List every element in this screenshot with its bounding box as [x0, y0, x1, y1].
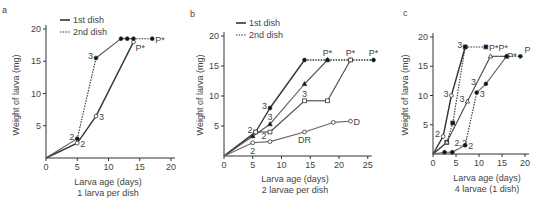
y-tick-label: 5 [423, 120, 428, 130]
x-tick-label: 25 [363, 160, 373, 170]
data-point [505, 54, 509, 58]
data-point [372, 58, 376, 62]
x-tick-label: 20 [166, 162, 176, 172]
legend-1st-dish: 1st dish [249, 18, 280, 28]
x-tick-label: 20 [520, 158, 530, 168]
data-point [349, 119, 353, 123]
x-tick-label: 5 [250, 160, 255, 170]
point-annotation: 3 [457, 40, 462, 50]
data-point [150, 37, 154, 41]
y-tick-label: 20 [31, 24, 41, 34]
plot-area: 23P*23P* [46, 35, 165, 158]
point-annotation: 3 [459, 94, 464, 104]
point-annotation: DR [298, 135, 311, 145]
data-point [484, 82, 488, 86]
y-axis-label: Weight of larva (mg) [195, 55, 205, 136]
y-tick-label: 10 [418, 91, 428, 101]
point-annotation: P* [369, 48, 379, 58]
plot-area: 23P*3P*23P*2DRD [224, 48, 379, 156]
point-annotation: 3 [267, 112, 272, 122]
point-annotation: P*P* [489, 43, 509, 53]
y-tick-label: 15 [31, 56, 41, 66]
point-annotation: 2 [468, 141, 473, 151]
panel-b: b 1st dish 2nd dish 05101520255101520 23… [190, 9, 379, 195]
point-annotation: 2 [80, 139, 85, 149]
point-annotation: 2 [248, 125, 253, 135]
data-point [326, 99, 330, 103]
panel-a: a 1st dish 2nd dish 051015205101520 23P*… [2, 5, 176, 198]
y-tick-label: 5 [36, 121, 41, 131]
x-tick-label: 20 [334, 160, 344, 170]
y-axis-label: Weight of larva (mg) [400, 55, 410, 136]
x-tick-label: 0 [43, 162, 48, 172]
data-point [75, 137, 79, 141]
panel-letter: a [2, 5, 7, 15]
series: 23P* [224, 48, 356, 156]
data-point [132, 37, 136, 41]
point-annotation: 3 [471, 77, 476, 87]
figure: a 1st dish 2nd dish 051015205101520 23P*… [0, 0, 545, 206]
point-annotation: P* [507, 51, 517, 61]
data-point [451, 121, 455, 125]
x-tick-label: 5 [453, 158, 458, 168]
x-axis-subtitle: 1 larva per dish [77, 188, 139, 198]
legend-2nd-dish: 2nd dish [249, 30, 283, 40]
series: 23P [433, 45, 530, 154]
point-annotation: 3 [443, 89, 448, 99]
data-point [75, 141, 79, 145]
x-tick-label: 0 [430, 158, 435, 168]
data-point [303, 99, 307, 103]
data-point [465, 99, 469, 103]
x-tick-label: 10 [276, 160, 286, 170]
x-tick-label: 15 [135, 162, 145, 172]
data-point [441, 135, 445, 139]
axes: 051015205101520 [31, 24, 176, 172]
x-tick-label: 5 [75, 162, 80, 172]
data-point [349, 58, 353, 62]
data-point [94, 56, 98, 60]
data-point [463, 45, 467, 49]
data-point [331, 121, 335, 125]
data-point [450, 94, 454, 98]
series: 2DRD [224, 117, 361, 156]
x-tick-label: 10 [474, 158, 484, 168]
point-annotation: 3 [480, 89, 485, 99]
x-axis-subtitle: 4 larvae (1 dish) [455, 184, 520, 194]
x-axis-subtitle: 2 larvae per dish [262, 185, 329, 195]
y-tick-label: 20 [418, 32, 428, 42]
point-annotation: P* [136, 43, 146, 53]
data-point [254, 130, 258, 134]
legend: 1st dish 2nd dish [60, 15, 107, 37]
data-point [268, 130, 272, 134]
y-tick-label: 20 [209, 31, 219, 41]
point-annotation: D [354, 117, 361, 127]
y-axis-label: Weight of larva (mg) [11, 55, 21, 136]
data-point [303, 58, 307, 62]
data-point [488, 54, 492, 58]
y-tick-label: 10 [31, 89, 41, 99]
data-point [268, 106, 272, 110]
point-annotation: 2 [262, 131, 267, 141]
panel-letter: b [190, 9, 195, 19]
data-point [268, 140, 272, 144]
data-point [443, 150, 447, 154]
data-point [450, 150, 454, 154]
data-point [463, 143, 467, 147]
x-tick-label: 15 [497, 158, 507, 168]
x-axis-label: Larva age (days) [261, 174, 329, 184]
x-tick-label: 0 [221, 160, 226, 170]
data-point [251, 141, 255, 145]
point-annotation: 3 [88, 51, 93, 61]
point-annotation: P* [346, 48, 356, 58]
panel-c: c 051015205101520 2332,2P*P*33P*23P Larv… [400, 8, 530, 194]
data-point [303, 130, 307, 134]
data-point [475, 91, 479, 95]
panel-letter: c [403, 8, 408, 18]
point-annotation: P* [323, 48, 333, 58]
y-tick-label: 10 [209, 91, 219, 101]
data-point [519, 54, 523, 58]
point-annotation: 2 [69, 132, 74, 142]
x-axis-label: Larva age (days) [453, 173, 521, 183]
legend-1st-dish: 1st dish [73, 15, 104, 25]
x-tick-label: 10 [103, 162, 113, 172]
